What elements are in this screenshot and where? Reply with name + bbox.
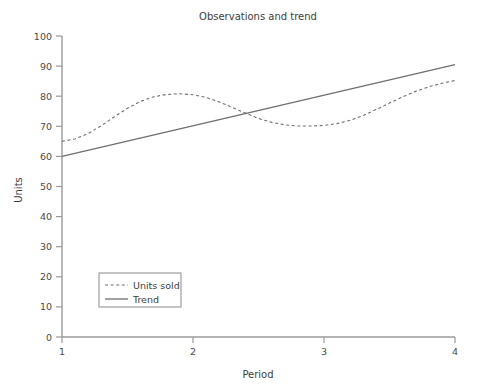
y-tick-label: 90 — [40, 61, 52, 72]
y-tick-label: 10 — [40, 301, 52, 312]
y-tick-label: 30 — [40, 241, 52, 252]
line-chart: Observations and trend 100 90 80 70 60 5… — [0, 0, 480, 389]
x-tick-label: 2 — [190, 346, 196, 357]
y-tick-label: 60 — [40, 151, 52, 162]
y-tick-label: 80 — [40, 91, 52, 102]
legend-label-units-sold: Units sold — [133, 280, 180, 291]
x-axis-ticks — [62, 337, 455, 343]
chart-container: Observations and trend 100 90 80 70 60 5… — [0, 0, 480, 389]
x-axis-tick-labels: 1 2 3 4 — [59, 346, 458, 357]
legend-label-trend: Trend — [132, 294, 159, 305]
y-tick-label: 70 — [40, 121, 52, 132]
x-tick-label: 1 — [59, 346, 65, 357]
x-tick-label: 4 — [452, 346, 458, 357]
y-tick-label: 50 — [40, 181, 52, 192]
y-tick-label: 100 — [34, 31, 52, 42]
y-axis-tick-labels: 100 90 80 70 60 50 40 30 20 10 0 — [34, 31, 52, 343]
y-tick-label: 20 — [40, 271, 52, 282]
y-axis-title: Units — [13, 177, 24, 203]
x-tick-label: 3 — [321, 346, 327, 357]
chart-legend: Units sold Trend — [99, 273, 181, 307]
chart-title: Observations and trend — [199, 11, 317, 22]
y-tick-label: 0 — [46, 332, 52, 343]
y-tick-label: 40 — [40, 211, 52, 222]
x-axis-title: Period — [242, 369, 273, 380]
y-axis-ticks — [56, 36, 62, 337]
